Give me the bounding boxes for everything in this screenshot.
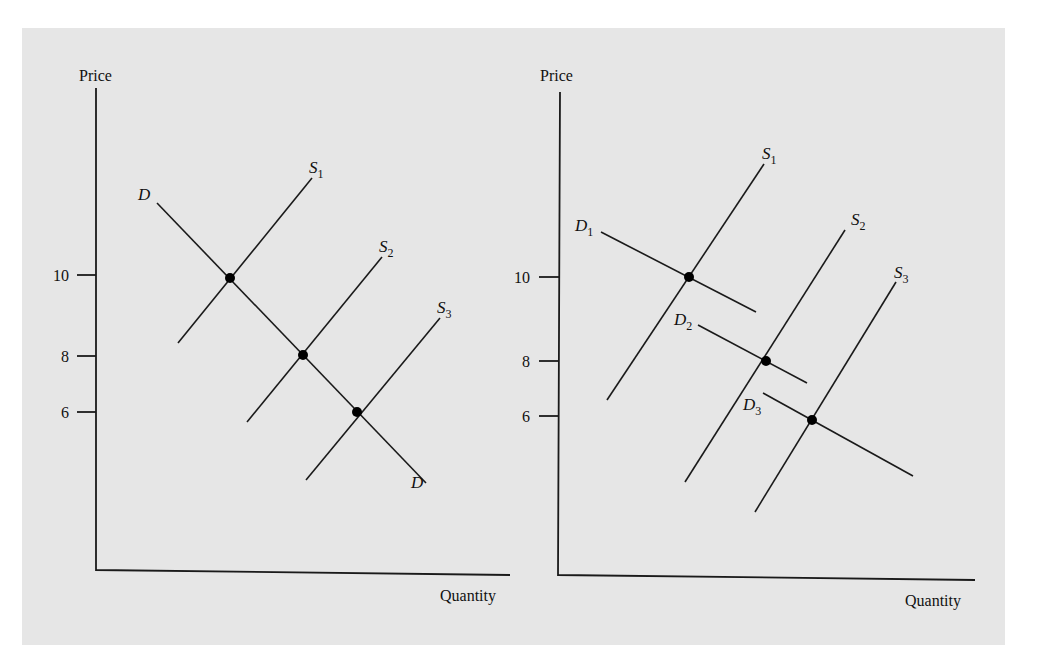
left-tick-label-10: 10 — [53, 267, 69, 284]
supply-demand-figure: Price 10 8 6 D D S1 S2 S3 Quantity Price — [0, 0, 1037, 666]
left-supply-label-s2: S2 — [379, 237, 394, 260]
right-tick-label-10: 10 — [514, 269, 530, 286]
left-axes — [96, 88, 510, 575]
right-demand-label-d3: D3 — [742, 395, 761, 418]
left-equilibrium-point-2 — [298, 350, 308, 360]
left-supply-curve-s2 — [247, 257, 382, 422]
left-equilibrium-point-1 — [225, 273, 235, 283]
left-supply-curve-s3 — [306, 318, 440, 480]
right-equilibrium-point-1 — [684, 272, 694, 282]
right-y-axis-label: Price — [540, 67, 573, 84]
left-equilibrium-point-3 — [352, 407, 362, 417]
left-chart: Price 10 8 6 D D S1 S2 S3 Quantity — [53, 67, 510, 605]
left-tick-label-8: 8 — [61, 348, 69, 365]
right-equilibrium-point-2 — [761, 356, 771, 366]
right-axes — [558, 92, 975, 580]
left-demand-label-top: D — [137, 185, 151, 204]
right-supply-label-s2: S2 — [851, 210, 866, 233]
right-x-axis-label: Quantity — [905, 592, 961, 610]
right-demand-label-d1: D1 — [574, 216, 593, 239]
right-tick-label-6: 6 — [522, 408, 530, 425]
right-equilibrium-point-3 — [807, 415, 817, 425]
left-x-axis-label: Quantity — [440, 587, 496, 605]
right-demand-label-d2: D2 — [673, 310, 692, 333]
right-supply-curve-s1 — [607, 164, 764, 400]
right-chart: Price 10 8 6 D1 D2 D3 S1 S2 S3 Quantity — [514, 67, 975, 610]
right-supply-curve-s3 — [755, 282, 896, 512]
right-demand-curve-d1 — [601, 232, 756, 312]
right-supply-curve-s2 — [685, 230, 845, 482]
right-supply-label-s1: S1 — [762, 144, 777, 167]
left-supply-curve-s1 — [178, 178, 312, 343]
left-supply-label-s3: S3 — [437, 298, 452, 321]
left-supply-label-s1: S1 — [309, 158, 324, 181]
left-tick-label-6: 6 — [61, 404, 69, 421]
left-y-axis-label: Price — [79, 67, 112, 84]
left-demand-label-bottom: D — [410, 473, 424, 492]
right-tick-label-8: 8 — [522, 353, 530, 370]
